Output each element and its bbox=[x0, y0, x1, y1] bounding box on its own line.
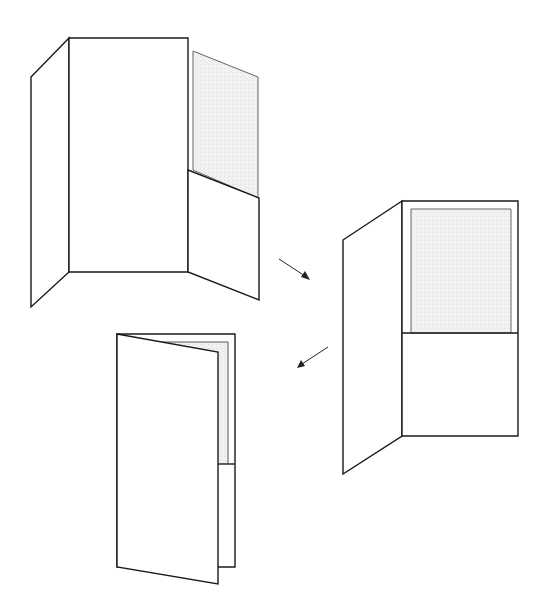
arrow-head-icon bbox=[297, 360, 305, 368]
arrow-right-down bbox=[279, 259, 310, 280]
folder-diagram bbox=[0, 0, 551, 615]
figure-closing-folder bbox=[117, 334, 235, 584]
arrow-head-icon bbox=[301, 271, 310, 280]
figure-open-folder-front-view bbox=[343, 201, 518, 474]
arrow-shaft bbox=[302, 347, 328, 364]
arrow-left-down bbox=[297, 347, 328, 368]
insert-sheet bbox=[411, 209, 511, 333]
left-flap bbox=[31, 38, 69, 307]
center-panel bbox=[69, 38, 188, 272]
arrow-shaft bbox=[279, 259, 305, 276]
figure-open-folder-trifold bbox=[31, 38, 259, 307]
left-flap bbox=[343, 201, 402, 474]
front-cover bbox=[117, 334, 218, 584]
